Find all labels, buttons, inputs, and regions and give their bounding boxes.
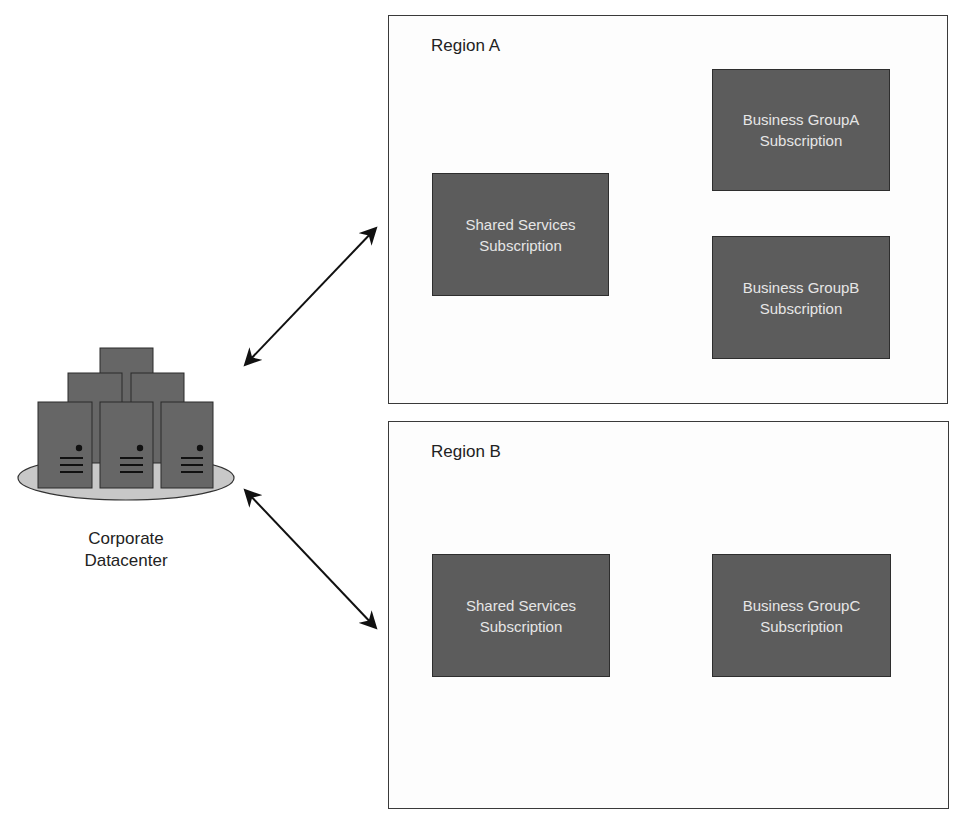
server-icon [100, 402, 153, 488]
diagram-canvas: Region A Shared Services Subscription Bu… [0, 0, 968, 824]
datacenter-label-line2: Datacenter [36, 550, 216, 572]
diagram-graphics [0, 0, 968, 824]
datacenter-region-b-arrow [246, 491, 375, 627]
datacenter-label: Corporate Datacenter [36, 528, 216, 572]
datacenter-label-line1: Corporate [36, 528, 216, 550]
server-icon [38, 402, 92, 488]
server-icon [161, 402, 213, 488]
datacenter-region-a-arrow [246, 229, 375, 364]
server-cluster-icon [18, 348, 234, 500]
